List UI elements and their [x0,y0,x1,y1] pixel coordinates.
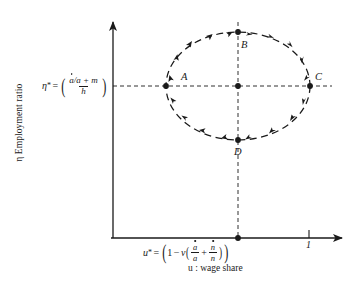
u-one-term: 1 [167,248,172,258]
point-d-marker [235,137,241,143]
point-a-label: A [181,72,187,83]
a-dot-over-a-denominator: a [191,252,198,262]
eta-star-superscript: * [47,82,51,90]
u-right-paren-icon: ) [224,244,228,261]
u-star-equation: u* = ( 1 − v ( a a + n n ) ) [143,243,229,262]
x-axis-tick-label: 1 [306,240,311,250]
u-left-paren-icon: ( [162,244,166,261]
eta-star-equation: η* = ( a/a + m h ) [42,76,108,96]
point-b-marker [235,29,241,35]
u-equals-sign: = [154,248,160,258]
eta-numerator-rest: /a + m [74,75,98,85]
right-paren-icon: ) [102,78,106,95]
u-plus-sign: + [201,248,207,258]
eta-equals-sign: = [52,81,58,91]
point-c-marker [307,83,313,89]
u-inner-left-paren-icon: ( [186,246,189,259]
axis-lines [111,22,342,238]
u-star-axis-marker [235,235,241,241]
a-dot-over-a-numerator: a [191,243,198,252]
phase-portrait-figure: A B C D η Employment ratio u : wage shar… [0,0,359,296]
equilibrium-point-marker [235,83,241,89]
u-minus-sign: − [174,248,180,258]
a-dot-over-a-fraction: a a [191,243,198,262]
u-v-symbol: v [181,248,185,258]
u-star-superscript: * [148,249,152,257]
point-a-marker [163,83,169,89]
eta-fraction-numerator: a/a + m [67,76,100,86]
eta-fraction: a/a + m h [67,76,100,96]
point-d-label: D [234,147,242,158]
n-dot-over-n-fraction: n n [209,243,216,262]
guide-lines [113,22,332,238]
left-paren-icon: ( [61,78,65,95]
point-b-label: B [241,40,247,51]
a-dot-symbol: a [69,76,74,85]
n-dot-over-n-numerator: n [209,243,216,252]
y-axis-label: η Employment ratio [15,63,25,183]
x-axis-label: u : wage share [188,264,243,274]
eta-fraction-denominator: h [79,86,88,97]
point-c-label: C [315,72,322,83]
n-dot-over-n-denominator: n [209,252,216,262]
u-inner-right-paren-icon: ) [218,246,221,259]
